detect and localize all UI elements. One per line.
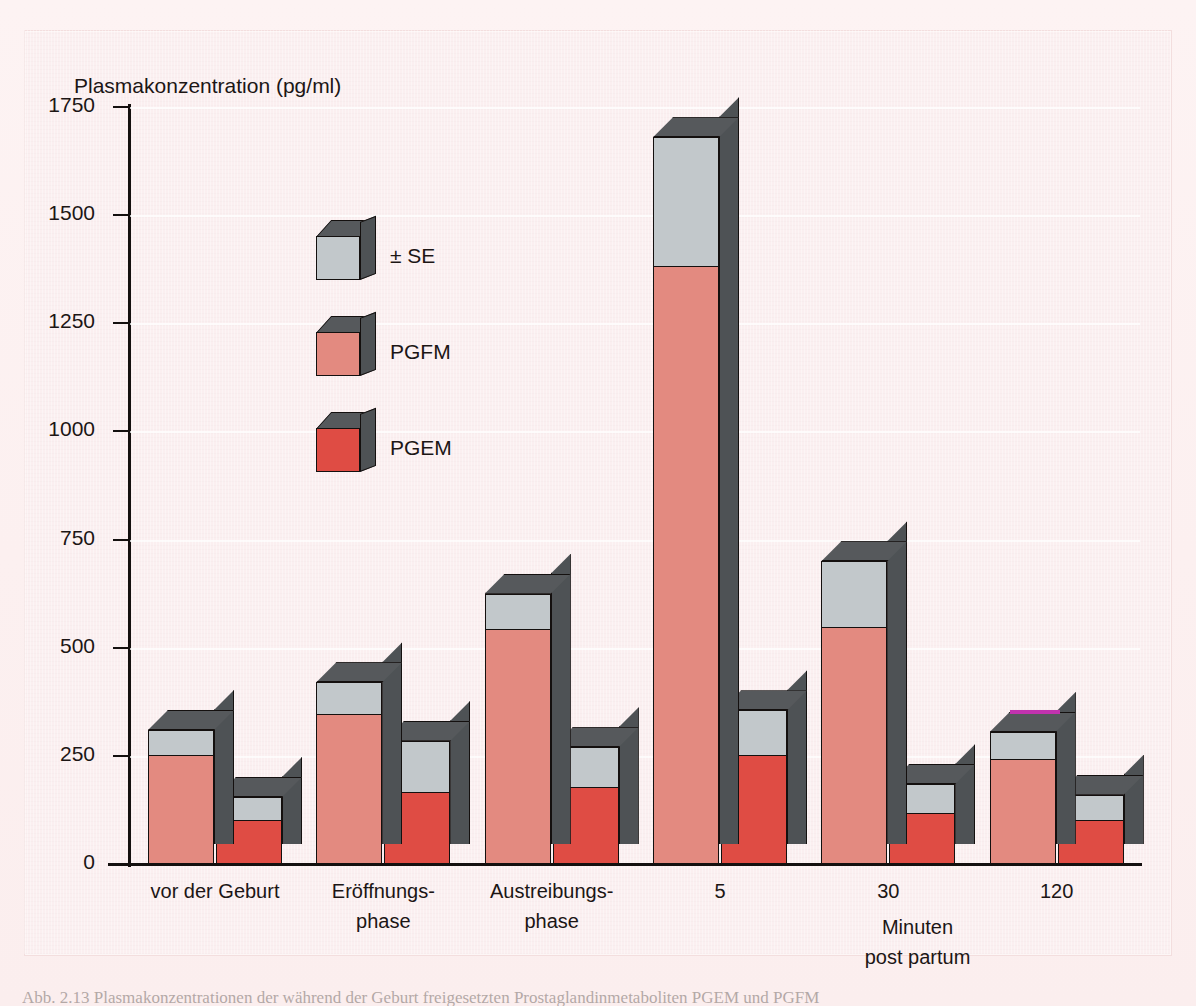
bar-body-pgfm	[149, 755, 213, 863]
cube-icon	[316, 222, 362, 268]
bar-body-pgfm	[317, 714, 381, 863]
figure-caption: Abb. 2.13 Plasmakonzentrationen der währ…	[22, 988, 1182, 1006]
bar-front-face	[316, 682, 382, 864]
figure-container: Plasmakonzentration (pg/ml) 025050075010…	[0, 0, 1196, 1006]
y-axis-tick	[113, 430, 129, 432]
y-axis-tick	[113, 322, 129, 324]
x-axis-tick-label: 5	[633, 876, 807, 906]
x-axis-tick-label: Austreibungs-	[465, 876, 639, 906]
bar-body-pgfm	[822, 627, 886, 863]
x-axis-tick-label: 30	[801, 876, 975, 906]
legend-swatch-se	[316, 236, 360, 280]
y-axis-tick-label: 1250	[0, 309, 95, 333]
bar-pgfm-4	[821, 561, 887, 864]
plot-area: 02505007501000125015001750vor der Geburt…	[130, 107, 1140, 864]
gridline	[130, 648, 1140, 650]
cube-icon	[316, 318, 362, 364]
magenta-edge-marker	[1010, 710, 1060, 714]
y-axis-tick-label: 500	[0, 634, 95, 658]
y-axis-tick	[113, 106, 129, 108]
x-axis-tick-label: Eröffnungs-	[296, 876, 470, 906]
y-axis-tick	[113, 755, 129, 757]
x-axis-tick-label: phase	[296, 906, 470, 936]
x-axis-tick-label: phase	[465, 906, 639, 936]
x-axis-label-group: 30	[801, 876, 975, 906]
y-axis-tick-label: 1750	[0, 93, 95, 117]
bar-front-face	[990, 732, 1056, 864]
bar-front-face	[653, 137, 719, 864]
bar-front-face	[821, 561, 887, 864]
bar-side-face	[887, 521, 907, 844]
legend-label: PGEM	[390, 436, 452, 460]
gridline	[130, 215, 1140, 217]
bar-front-face	[148, 730, 214, 864]
bar-side-face	[282, 757, 302, 844]
bar-side-face	[1124, 755, 1144, 844]
cube-icon	[316, 414, 362, 460]
y-axis-tick-label: 750	[0, 526, 95, 550]
x-axis-note: Minutenpost partum	[813, 912, 1021, 972]
x-axis-label-group: Eröffnungs-phase	[296, 876, 470, 936]
y-axis-tick	[113, 647, 129, 649]
bar-side-face	[955, 744, 975, 844]
bar-body-pgfm	[654, 266, 718, 863]
bar-front-face	[485, 594, 551, 864]
y-axis-tick	[113, 863, 129, 865]
bar-body-pgfm	[991, 759, 1055, 863]
gridline	[130, 323, 1140, 325]
bar-body-pgfm	[486, 629, 550, 863]
x-axis-tick-label: 120	[970, 876, 1144, 906]
bar-pgfm-2	[485, 594, 551, 864]
legend-label: ± SE	[390, 244, 435, 268]
y-axis-tick	[113, 539, 129, 541]
x-axis-label-group: Austreibungs-phase	[465, 876, 639, 936]
legend-swatch-pgfm	[316, 332, 360, 376]
y-axis-title: Plasmakonzentration (pg/ml)	[74, 74, 341, 98]
bar-pgfm-3	[653, 137, 719, 864]
y-axis-tick	[113, 214, 129, 216]
gridline	[130, 431, 1140, 433]
x-axis-label-group: 5	[633, 876, 807, 906]
gridline	[130, 107, 1140, 109]
bar-pgfm-5	[990, 732, 1056, 864]
x-axis-label-group: vor der Geburt	[128, 876, 302, 906]
x-axis-label-group: 120	[970, 876, 1144, 906]
bar-pgfm-1	[316, 682, 382, 864]
y-axis-tick-label: 0	[0, 850, 95, 874]
bar-side-face	[551, 554, 571, 844]
x-axis-note-line: post partum	[813, 942, 1021, 972]
bar-side-face	[719, 97, 739, 844]
bar-pgfm-0	[148, 730, 214, 864]
gridline	[130, 540, 1140, 542]
y-axis-tick-label: 1000	[0, 417, 95, 441]
y-axis-tick-label: 1500	[0, 201, 95, 225]
x-axis-tick-label: vor der Geburt	[128, 876, 302, 906]
y-axis-tick-label: 250	[0, 742, 95, 766]
x-axis-note-line: Minuten	[813, 912, 1021, 942]
legend-swatch-pgem	[316, 428, 360, 472]
legend-label: PGFM	[390, 340, 451, 364]
